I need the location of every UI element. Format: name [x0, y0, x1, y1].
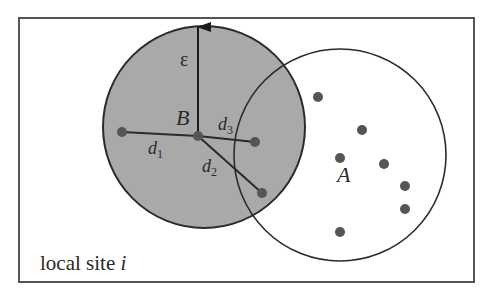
data-point: [400, 204, 410, 214]
points-in-a: [313, 92, 410, 237]
data-point: [117, 127, 127, 137]
data-point: [400, 181, 410, 191]
data-point: [257, 188, 267, 198]
circle-b-label: B: [176, 105, 189, 130]
center-point-b: [193, 131, 203, 141]
data-point: [357, 125, 367, 135]
data-point: [313, 92, 323, 102]
epsilon-label: ε: [180, 48, 188, 70]
data-point: [379, 159, 389, 169]
data-point: [335, 227, 345, 237]
caption-local-site: local site i: [40, 251, 126, 275]
neighborhood-diagram: ε B A d1 d2 d3 local site i: [0, 0, 489, 301]
circle-b-neighborhood: [103, 26, 305, 228]
data-point: [250, 137, 260, 147]
circle-a-label: A: [335, 162, 351, 187]
